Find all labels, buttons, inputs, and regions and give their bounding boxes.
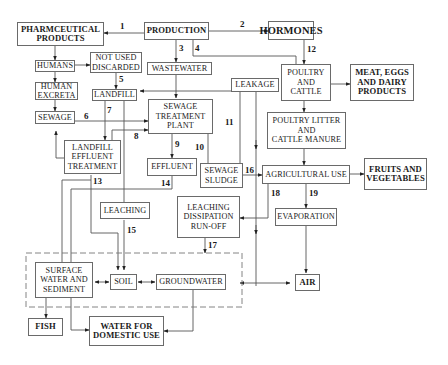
node-effluent: EFFLUENT [147,158,197,176]
node-poultry-and-cattle: POULTRY AND CATTLE [281,64,331,101]
node-sewage: SEWAGE [35,111,75,124]
node-human-excreta: HUMAN EXCRETA [35,82,78,100]
node-soil: SOIL [110,274,137,290]
edge-label-8: 8 [134,131,139,141]
node-sewage-treatment-plant: SEWAGE TREATMENT PLANT [148,99,213,134]
node-air: AIR [295,274,320,291]
edge-label-11: 11 [225,117,234,127]
node-hormones: HORMONES [268,21,314,40]
node-groundwater: GROUNDWATER [156,274,226,290]
node-leakage: LEAKAGE [231,78,279,92]
node-landfill: LANDFILL [92,89,137,101]
node-pharmaceutical-products: PHARMCEUTICAL PRODUCTS [17,22,104,46]
edge-label-4: 4 [195,43,200,53]
node-not-used-discarded: NOT USED DISCARDED [90,52,142,73]
node-sewage-sludge: SEWAGE SLUDGE [200,163,243,188]
node-fruits-and-vegetables: FRUITS AND VEGETABLES [364,158,427,190]
edge-label-9: 9 [175,139,180,149]
edge-label-15: 15 [127,225,136,235]
node-meat-eggs-dairy: MEAT, EGGS AND DAIRY PRODUCTS [350,64,414,101]
node-agricultural-use: AGRICULTURAL USE [262,165,350,184]
node-poultry-litter-cattle-manure: POULTRY LITTER AND CATTLE MANURE [267,112,346,149]
edge-label-2: 2 [240,19,245,29]
edge-label-16: 16 [245,165,254,175]
edge-label-6: 6 [84,111,89,121]
edge-label-13: 13 [93,176,102,186]
node-water-for-domestic-use: WATER FOR DOMESTIC USE [89,316,164,346]
node-leaching: LEACHING [100,202,150,219]
node-production: PRODUCTION [144,22,209,40]
edge-label-14: 14 [161,178,170,188]
node-landfill-effluent-treatment: LANDFILL EFFLUENT TREATMENT [64,140,121,174]
node-evaporation: EVAPORATION [275,208,337,226]
edge-label-12: 12 [307,44,316,54]
edge-label-17: 17 [208,240,217,250]
edge-label-18: 18 [271,188,280,198]
node-wastewater: WASTEWATER [147,62,212,75]
node-humans: HUMANS [35,60,75,72]
edge-label-10: 10 [195,142,204,152]
node-surface-water-sediment: SURFACE WATER AND SEDIMENT [35,262,93,298]
node-leaching-dissipation-runoff: LEACHING DISSIPATION RUN-OFF [177,196,240,238]
node-fish: FISH [28,318,63,336]
edge-label-19: 19 [309,188,318,198]
edge-label-1: 1 [120,21,125,31]
edge-label-5: 5 [119,74,124,84]
edge-label-7: 7 [107,105,112,115]
edge-label-3: 3 [179,43,184,53]
